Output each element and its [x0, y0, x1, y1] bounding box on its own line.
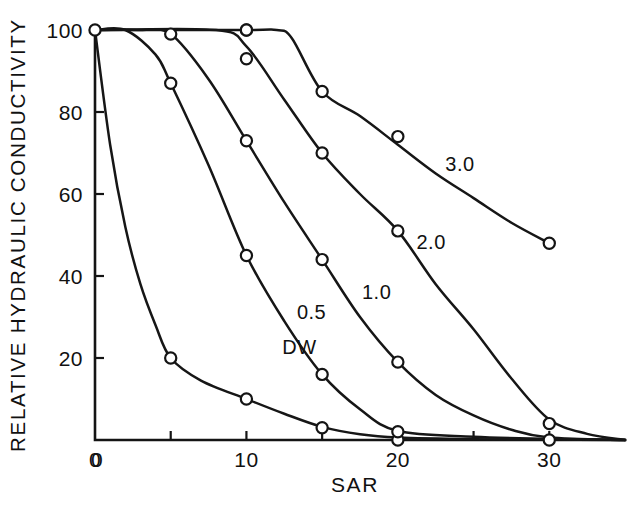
- data-point: [317, 369, 328, 380]
- data-point: [241, 53, 252, 64]
- series-label-DW: DW: [282, 336, 316, 358]
- chart-figure: 0102030020406080100 DW0.51.02.03.0 SAR R…: [0, 0, 644, 509]
- data-point: [241, 24, 252, 35]
- data-point: [392, 131, 403, 142]
- data-point: [165, 78, 176, 89]
- curve-3.0: [95, 29, 549, 243]
- data-point: [544, 238, 555, 249]
- data-point: [241, 250, 252, 261]
- y-tick-label: 40: [59, 265, 83, 288]
- y-tick-label: 20: [59, 347, 83, 370]
- data-point: [89, 24, 100, 35]
- series-label-0.5: 0.5: [297, 301, 326, 323]
- x-tick-label: 10: [234, 448, 258, 471]
- data-point: [165, 352, 176, 363]
- y-tick-label: 60: [59, 183, 83, 206]
- data-point: [317, 86, 328, 97]
- y-tick-label: 100: [46, 19, 83, 42]
- data-point: [317, 422, 328, 433]
- data-point: [317, 254, 328, 265]
- x-tick-label-zero: 0: [91, 448, 103, 471]
- curve-0.5: [95, 28, 625, 440]
- series-label-2.0: 2.0: [417, 231, 446, 253]
- data-point: [544, 418, 555, 429]
- chart-data-markers: [89, 24, 554, 445]
- data-point: [241, 393, 252, 404]
- y-axis-title: RELATIVE HYDRAULIC CONDUCTIVITY: [6, 18, 29, 452]
- data-point: [241, 135, 252, 146]
- data-point: [544, 434, 555, 445]
- chart-series-labels: DW0.51.02.03.0: [282, 153, 474, 357]
- data-point: [317, 147, 328, 158]
- chart-curves: [95, 28, 625, 440]
- series-label-3.0: 3.0: [445, 153, 474, 175]
- data-point: [392, 357, 403, 368]
- data-point: [392, 225, 403, 236]
- y-tick-label: 80: [59, 101, 83, 124]
- data-point: [392, 426, 403, 437]
- series-label-1.0: 1.0: [362, 281, 391, 303]
- chart-tick-labels: 0102030020406080100: [46, 19, 561, 471]
- x-axis-title: SAR: [331, 473, 379, 496]
- x-tick-label: 30: [537, 448, 561, 471]
- chart-canvas: 0102030020406080100 DW0.51.02.03.0 SAR R…: [0, 0, 644, 509]
- data-point: [165, 28, 176, 39]
- x-tick-label: 20: [386, 448, 410, 471]
